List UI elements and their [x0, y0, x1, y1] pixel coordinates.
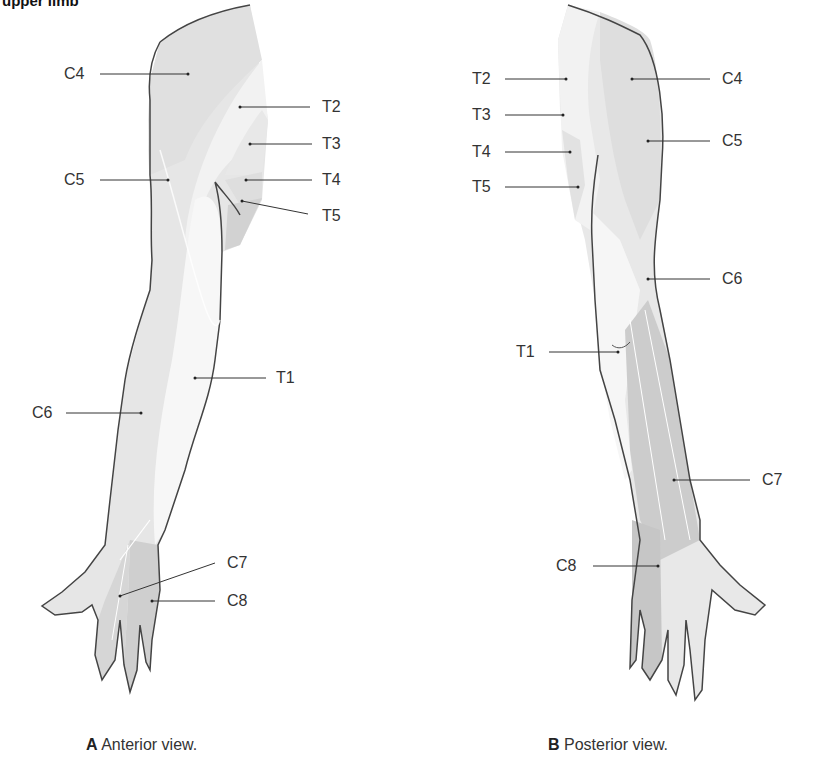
posterior-c8-zone [630, 520, 662, 680]
anterior-caption: A Anterior view. [86, 736, 197, 754]
anterior-caption-text: Anterior view. [101, 736, 197, 753]
posterior-label-t1: T1 [516, 344, 535, 360]
posterior-label-c5: C5 [722, 133, 742, 149]
anterior-label-c7: C7 [227, 555, 247, 571]
anterior-c8-zone [124, 540, 160, 692]
posterior-label-c8: C8 [556, 558, 576, 574]
anterior-t5-zone [225, 198, 262, 250]
posterior-label-t5: T5 [472, 179, 491, 195]
anterior-label-c4: C4 [64, 66, 84, 82]
anterior-label-t5: T5 [322, 208, 341, 224]
anterior-label-c8: C8 [227, 593, 247, 609]
posterior-label-t2: T2 [472, 71, 491, 87]
anterior-label-t1: T1 [276, 370, 295, 386]
anterior-arm [42, 5, 312, 692]
posterior-label-t4: T4 [472, 144, 491, 160]
posterior-arm [505, 5, 765, 700]
posterior-label-c7: C7 [762, 472, 782, 488]
posterior-label-c6: C6 [722, 271, 742, 287]
posterior-caption: B Posterior view. [548, 736, 668, 754]
anterior-label-t2: T2 [322, 99, 341, 115]
posterior-label-c4: C4 [722, 71, 742, 87]
anterior-caption-letter: A [86, 736, 98, 753]
posterior-caption-letter: B [548, 736, 560, 753]
posterior-caption-text: Posterior view. [564, 736, 668, 753]
anterior-label-t4: T4 [322, 172, 341, 188]
posterior-label-t3: T3 [472, 107, 491, 123]
anterior-label-t3: T3 [322, 136, 341, 152]
anterior-label-c5: C5 [64, 172, 84, 188]
dermatome-figure [0, 0, 822, 777]
anterior-label-c6: C6 [32, 405, 52, 421]
